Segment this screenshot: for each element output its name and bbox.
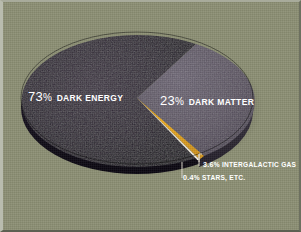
slice-label-dark-matter: 23% DARK MATTER [160, 92, 254, 108]
pie-chart-figure: 73% DARK ENERGY 23% DARK MATTER 3.6% INT… [0, 0, 301, 232]
percent-sign-dark-matter: % [175, 96, 184, 107]
pie-chart-graphic [3, 2, 301, 232]
slice-category-dark-matter: DARK MATTER [189, 97, 255, 107]
percent-sign-intergalactic-gas: % [214, 161, 220, 168]
slice-percent-intergalactic-gas: 3.6 [203, 160, 214, 169]
slice-percent-dark-matter: 23 [160, 93, 175, 108]
slice-category-stars: STARS, ETC. [202, 174, 245, 181]
slice-label-intergalactic-gas: 3.6% INTERGALACTIC GAS [203, 161, 296, 169]
slice-category-dark-energy: DARK ENERGY [57, 93, 124, 103]
slice-percent-dark-energy: 73 [28, 89, 43, 104]
slice-percent-stars: 0.4 [183, 173, 194, 182]
slice-category-intergalactic-gas: INTERGALACTIC GAS [222, 161, 296, 168]
slice-label-dark-energy: 73% DARK ENERGY [28, 88, 123, 104]
slice-label-stars: 0.4% STARS, ETC. [183, 174, 245, 182]
percent-sign-dark-energy: % [43, 92, 52, 103]
percent-sign-stars: % [194, 174, 200, 181]
